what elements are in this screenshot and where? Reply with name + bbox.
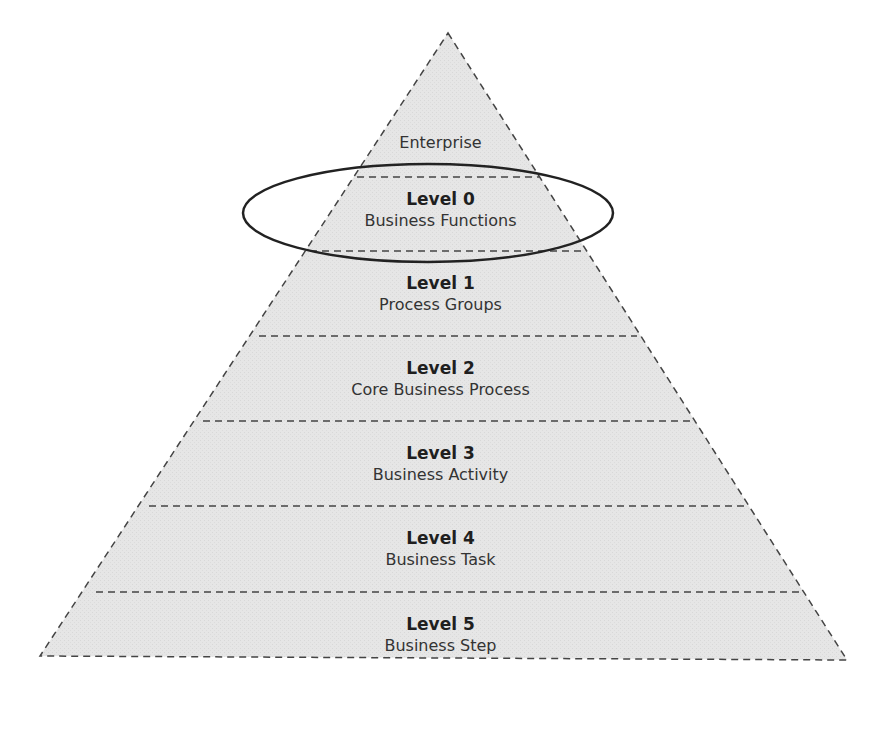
pyramid-body bbox=[40, 33, 847, 660]
pyramid-diagram bbox=[0, 0, 881, 733]
